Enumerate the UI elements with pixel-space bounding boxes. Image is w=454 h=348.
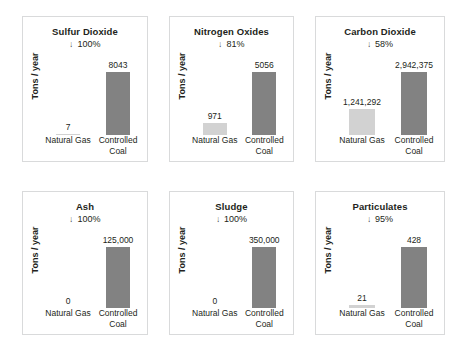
- chart-panel-sulfur-dioxide: Sulfur Dioxide↓ 100%Tons / year78043Natu…: [22, 16, 148, 162]
- chart-panel-slot: Particulates↓ 95%Tons / year21428Natural…: [302, 175, 454, 348]
- x-axis-tick-label: Natural Gas: [338, 308, 386, 332]
- chart-panel-grid: Sulfur Dioxide↓ 100%Tons / year78043Natu…: [0, 0, 454, 348]
- plot-area: 21428: [336, 230, 440, 308]
- x-axis-tick-label: Natural Gas: [45, 308, 91, 332]
- bar-value-label: 350,000: [249, 235, 280, 246]
- chart-panel-sludge: Sludge↓ 100%Tons / year0350,000Natural G…: [169, 191, 294, 335]
- chart-panel-particulates: Particulates↓ 95%Tons / year21428Natural…: [315, 191, 445, 335]
- chart-panel-slot: Sludge↓ 100%Tons / year0350,000Natural G…: [156, 175, 302, 348]
- chart-panel-nitrogen-oxides: Nitrogen Oxides↓ 81%Tons / year9715056Na…: [169, 16, 294, 162]
- plot-area: 0125,000: [43, 230, 143, 308]
- chart-panel-slot: Sulfur Dioxide↓ 100%Tons / year78043Natu…: [0, 0, 156, 175]
- arrow-down-icon: ↓: [70, 39, 73, 49]
- x-axis: Natural GasControlled Coal: [43, 135, 143, 159]
- bar-controlled-coal: [252, 72, 276, 135]
- y-axis-label-text: Tons / year: [177, 227, 187, 274]
- bar-controlled-coal: [106, 247, 131, 308]
- x-axis-tick-label: Controlled Coal: [241, 135, 287, 159]
- y-axis-label-text: Tons / year: [177, 53, 187, 100]
- x-axis-tick-label: Controlled Coal: [95, 135, 141, 159]
- arrow-down-icon: ↓: [217, 214, 220, 224]
- x-axis: Natural GasControlled Coal: [190, 135, 289, 159]
- bar-series: 21428: [336, 230, 440, 308]
- y-axis-label-text: Tons / year: [323, 227, 333, 274]
- bar-column: 971: [193, 55, 237, 135]
- bar-series: 78043: [43, 55, 143, 135]
- bar-controlled-coal: [401, 247, 427, 308]
- y-axis-label: Tons / year: [27, 192, 43, 308]
- bar-value-label: 428: [407, 235, 421, 246]
- bar-value-label: 21: [357, 293, 366, 304]
- x-axis: Natural GasControlled Coal: [336, 308, 440, 332]
- bar-value-label: 0: [212, 296, 217, 307]
- y-axis-label-text: Tons / year: [323, 53, 333, 100]
- x-axis-tick-label: Controlled Coal: [95, 308, 141, 332]
- bar-column: 8043: [96, 55, 140, 135]
- x-axis-tick-label: Controlled Coal: [241, 308, 287, 332]
- bar-natural-gas: [349, 109, 375, 135]
- bar-value-label: 5056: [255, 60, 274, 71]
- y-axis-label-text: Tons / year: [30, 227, 40, 274]
- plot-area: 1,241,2922,942,375: [336, 55, 440, 135]
- x-axis: Natural GasControlled Coal: [43, 308, 143, 332]
- bar-column: 1,241,292: [339, 55, 385, 135]
- bar-column: 350,000: [242, 230, 286, 308]
- bar-column: 0: [193, 230, 237, 308]
- x-axis-tick-label: Natural Gas: [45, 135, 91, 159]
- reduction-value: 100%: [224, 214, 247, 224]
- plot-area: 0350,000: [190, 230, 289, 308]
- bar-value-label: 7: [66, 122, 71, 133]
- arrow-down-icon: ↓: [368, 39, 371, 49]
- x-axis-tick-label: Natural Gas: [338, 135, 386, 159]
- x-axis-tick-label: Controlled Coal: [390, 135, 438, 159]
- plot-area: 78043: [43, 55, 143, 135]
- reduction-value: 100%: [77, 39, 100, 49]
- bar-series: 0350,000: [190, 230, 289, 308]
- y-axis-label: Tons / year: [27, 17, 43, 135]
- x-axis-tick-label: Natural Gas: [192, 308, 238, 332]
- bar-value-label: 2,942,375: [395, 60, 433, 71]
- arrow-down-icon: ↓: [70, 214, 73, 224]
- chart-panel-slot: Ash↓ 100%Tons / year0125,000Natural GasC…: [0, 175, 156, 348]
- bar-value-label: 125,000: [103, 235, 134, 246]
- y-axis-label: Tons / year: [174, 17, 190, 135]
- plot-area: 9715056: [190, 55, 289, 135]
- x-axis-tick-label: Natural Gas: [192, 135, 238, 159]
- chart-panel-ash: Ash↓ 100%Tons / year0125,000Natural GasC…: [22, 191, 148, 335]
- arrow-down-icon: ↓: [368, 214, 371, 224]
- x-axis: Natural GasControlled Coal: [190, 308, 289, 332]
- reduction-value: 58%: [375, 39, 393, 49]
- bar-column: 0: [46, 230, 90, 308]
- y-axis-label: Tons / year: [320, 192, 336, 308]
- y-axis-label: Tons / year: [174, 192, 190, 308]
- arrow-down-icon: ↓: [219, 39, 222, 49]
- x-axis-tick-label: Controlled Coal: [390, 308, 438, 332]
- bar-value-label: 0: [66, 296, 71, 307]
- bar-value-label: 8043: [109, 60, 128, 71]
- bar-series: 1,241,2922,942,375: [336, 55, 440, 135]
- bar-column: 7: [46, 55, 90, 135]
- bar-column: 2,942,375: [391, 55, 437, 135]
- chart-panel-slot: Nitrogen Oxides↓ 81%Tons / year9715056Na…: [156, 0, 302, 175]
- bar-column: 5056: [242, 55, 286, 135]
- reduction-value: 100%: [77, 214, 100, 224]
- bar-controlled-coal: [252, 247, 276, 308]
- bar-series: 0125,000: [43, 230, 143, 308]
- bar-controlled-coal: [401, 72, 427, 135]
- y-axis-label-text: Tons / year: [30, 53, 40, 100]
- bar-column: 125,000: [96, 230, 140, 308]
- bar-value-label: 971: [208, 111, 222, 122]
- bar-series: 9715056: [190, 55, 289, 135]
- y-axis-label: Tons / year: [320, 17, 336, 135]
- reduction-value: 95%: [375, 214, 393, 224]
- x-axis: Natural GasControlled Coal: [336, 135, 440, 159]
- bar-controlled-coal: [106, 72, 131, 135]
- bar-column: 21: [339, 230, 385, 308]
- bar-natural-gas: [203, 123, 227, 135]
- chart-panel-slot: Carbon Dioxide↓ 58%Tons / year1,241,2922…: [302, 0, 454, 175]
- reduction-value: 81%: [227, 39, 245, 49]
- bar-column: 428: [391, 230, 437, 308]
- chart-panel-carbon-dioxide: Carbon Dioxide↓ 58%Tons / year1,241,2922…: [315, 16, 445, 162]
- bar-value-label: 1,241,292: [343, 97, 381, 108]
